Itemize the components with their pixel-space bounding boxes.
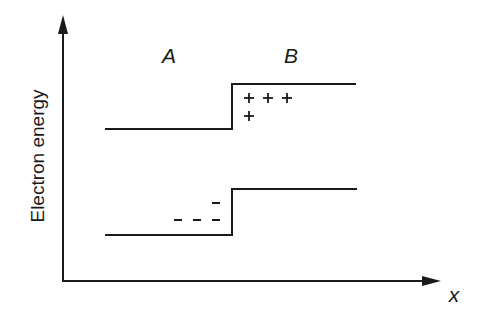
y-axis	[58, 15, 68, 281]
plus-icon	[282, 93, 292, 103]
region-label-b: B	[284, 44, 298, 67]
negative-charges	[174, 203, 220, 220]
plus-icon	[244, 111, 254, 121]
y-axis-label: Electron energy	[27, 89, 48, 223]
region-label-a: A	[160, 44, 176, 67]
x-axis-arrow-icon	[422, 276, 441, 286]
plus-icon	[244, 93, 254, 103]
x-axis-label: x	[448, 283, 461, 306]
upper-band-line	[105, 84, 356, 129]
lower-band-line	[105, 189, 357, 235]
positive-charges	[244, 93, 292, 121]
x-axis	[62, 276, 441, 286]
band-diagram: A B Electron energy x	[0, 0, 484, 317]
plus-icon	[263, 93, 273, 103]
y-axis-arrow-icon	[58, 15, 68, 34]
